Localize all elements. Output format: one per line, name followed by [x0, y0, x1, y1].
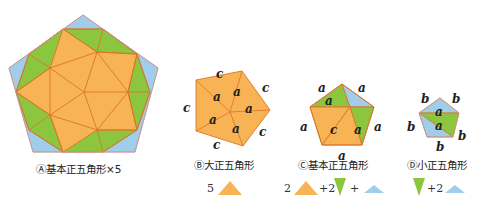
operator: +2	[319, 182, 335, 195]
edge-label: b	[407, 120, 415, 134]
blue-triangle-icon	[445, 185, 465, 193]
edge-label: c	[262, 81, 270, 95]
operator: +2	[427, 182, 443, 195]
inner-label: a	[245, 102, 253, 116]
inner-label: a	[435, 119, 443, 133]
orange-triangle-icon	[218, 181, 242, 195]
figure-b-pentagon: c c c c c a a a a a	[183, 67, 270, 152]
orange-triangle-icon	[294, 181, 318, 195]
formula-c: 2 +2 +	[284, 178, 384, 196]
caption-figure-d: Ⓓ小正五角形	[407, 157, 467, 172]
coefficient: 2	[284, 182, 291, 195]
inner-label: a	[209, 113, 217, 127]
coefficient: 5	[207, 182, 214, 195]
figure-a-large-pentagon	[9, 15, 158, 152]
inner-label: a	[325, 94, 333, 108]
inner-label: c	[330, 123, 338, 137]
figure-d-pentagon: b b b b b a a	[407, 92, 466, 154]
green-triangle-icon	[334, 178, 346, 196]
edge-label: b	[458, 129, 466, 143]
edge-label: c	[259, 125, 267, 139]
inner-label: a	[213, 90, 221, 104]
edge-label: a	[374, 120, 382, 134]
edge-label: c	[183, 101, 191, 115]
caption-figure-c: Ⓒ基本正五角形	[298, 157, 368, 172]
edge-label: c	[216, 67, 224, 81]
edge-label: b	[452, 92, 460, 106]
edge-label: b	[436, 140, 444, 154]
caption-figure-b: Ⓑ大正五角形	[194, 157, 254, 172]
green-triangle-icon	[413, 178, 425, 196]
blue-triangle-icon	[364, 185, 384, 193]
inner-label: a	[232, 122, 240, 136]
formula-d: +2	[413, 178, 465, 196]
operator: +	[350, 182, 359, 195]
edge-label: a	[358, 81, 366, 95]
formula-b: 5	[207, 181, 242, 195]
edge-label: c	[213, 138, 221, 152]
inner-label: a	[233, 85, 241, 99]
edge-label: a	[318, 81, 326, 95]
edge-label: b	[421, 92, 429, 106]
inner-label: a	[435, 105, 443, 119]
caption-figure-a: Ⓐ基本正五角形×5	[36, 161, 121, 176]
inner-label: a	[354, 123, 362, 137]
edge-label: a	[300, 120, 308, 134]
figure-c-pentagon: a a a a a a c a	[300, 81, 382, 163]
